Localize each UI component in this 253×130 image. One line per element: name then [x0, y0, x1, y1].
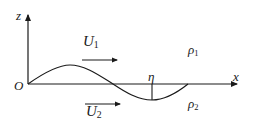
interface-wave: [28, 65, 188, 100]
u2-symbol: U: [86, 103, 97, 119]
z-axis-label: z: [16, 9, 21, 22]
u2-subscript: 2: [97, 109, 102, 120]
u1-label: U1: [83, 34, 99, 50]
u1-subscript: 1: [94, 39, 99, 50]
u1-symbol: U: [83, 33, 94, 49]
rho2-subscript: 2: [194, 102, 198, 112]
rho1-label: ρ1: [188, 43, 198, 58]
rho2-label: ρ2: [188, 97, 198, 112]
rho1-subscript: 1: [194, 48, 198, 58]
origin-label: O: [14, 79, 23, 92]
x-axis-label: x: [233, 70, 239, 83]
u2-label: U2: [86, 104, 102, 120]
eta-label: η: [148, 70, 154, 83]
two-layer-flow-diagram: z x O U1 U2 ρ1 ρ2 η: [0, 0, 253, 130]
diagram-graphics: [0, 0, 253, 130]
